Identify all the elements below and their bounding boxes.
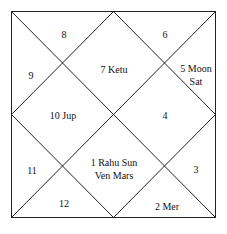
house-8-label: 8 (62, 28, 67, 41)
horoscope-chart (0, 0, 227, 234)
house-label-line: 4 (163, 109, 168, 122)
house-6-label: 6 (163, 28, 168, 41)
house-3-label: 3 (194, 163, 199, 176)
house-label-line: Sat (180, 75, 211, 88)
house-label-line: 7 Ketu (101, 63, 128, 76)
house-label-line: Ven Mars (91, 169, 138, 182)
chart-lines (12, 12, 216, 218)
house-label-line: 1 Rahu Sun (91, 156, 138, 169)
house-2-label: 2 Mer (155, 200, 179, 213)
house-7-label: 7 Ketu (101, 63, 128, 76)
house-1-label: 1 Rahu SunVen Mars (91, 156, 138, 182)
house-label-line: 9 (29, 69, 34, 82)
house-label-line: 6 (163, 28, 168, 41)
house-label-line: 2 Mer (155, 200, 179, 213)
house-4-label: 4 (163, 109, 168, 122)
house-label-line: 12 (59, 197, 69, 210)
house-label-line: 3 (194, 163, 199, 176)
house-11-label: 11 (27, 164, 37, 177)
house-12-label: 12 (59, 197, 69, 210)
house-9-label: 9 (29, 69, 34, 82)
house-5-label: 5 MoonSat (180, 62, 211, 88)
house-label-line: 11 (27, 164, 37, 177)
house-label-line: 10 Jup (50, 109, 76, 122)
house-label-line: 8 (62, 28, 67, 41)
house-10-label: 10 Jup (50, 109, 76, 122)
house-label-line: 5 Moon (180, 62, 211, 75)
